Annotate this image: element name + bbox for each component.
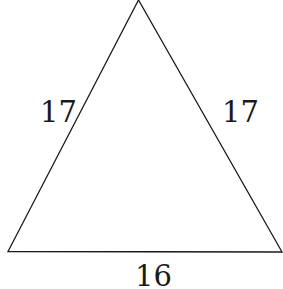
right-side-label: 17 <box>222 98 259 127</box>
triangle-figure <box>0 0 283 289</box>
base-label: 16 <box>135 262 172 289</box>
left-side-label: 17 <box>40 98 77 127</box>
